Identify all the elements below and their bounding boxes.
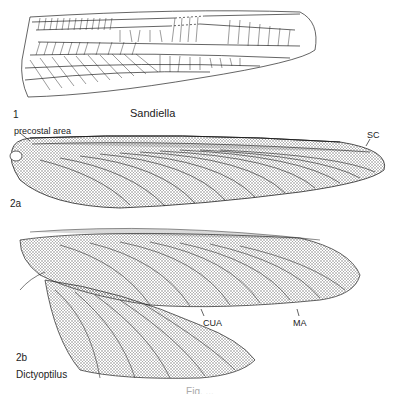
sc-label: SC — [367, 130, 380, 140]
cua-label: CUA — [203, 318, 222, 328]
sandiella-wing — [22, 11, 316, 97]
panel-1-number: 1 — [13, 110, 19, 120]
panel-2a-number: 2a — [10, 199, 21, 209]
precostal-area-label: precostal area — [14, 126, 71, 136]
figure-caption-truncated: Fig. ... — [110, 386, 290, 394]
panel-1-taxon-label: Sandiella — [130, 108, 175, 118]
dictyoptilus-wing-pair — [20, 228, 360, 378]
panel-2b-number: 2b — [16, 353, 27, 363]
panel-2b-taxon-label: Dictyoptilus — [16, 370, 67, 380]
dictyoptilus-forewing — [10, 136, 385, 208]
ma-label: MA — [293, 318, 307, 328]
